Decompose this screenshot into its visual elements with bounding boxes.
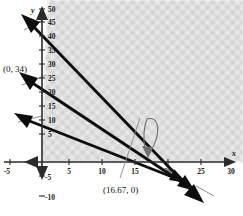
y-tick-label: 5 [48,130,52,139]
graph-canvas: -5 5 10 15 20 25 30 50 45 40 35 30 25 20… [0,0,243,216]
y-tick-label: 15 [48,102,56,111]
y-tick-label: 40 [48,32,56,41]
y-tick-label: -5 [45,173,51,182]
y-tick-label: 45 [48,18,56,27]
y-tick-label: 50 [48,5,56,14]
y-tick-label: 20 [48,88,56,97]
x-tick-label: 25 [197,167,205,176]
y-tick-label: 30 [48,60,56,69]
y-axis-name: y [30,6,35,15]
x-axis-name: x [231,149,236,158]
y-tick-label: -10 [45,193,55,202]
x-tick-label: 30 [227,167,235,176]
x-tick-label: 5 [67,167,71,176]
x-tick-label: 10 [98,167,106,176]
graph-figure: -5 5 10 15 20 25 30 50 45 40 35 30 25 20… [0,0,243,216]
x-tick-label: 15 [131,167,139,176]
y-tick-label: 35 [48,46,56,55]
x-tick-label: 20 [164,167,172,176]
y-intercept-label: (0, 34) [3,64,27,74]
x-tick-label: -5 [4,167,10,176]
x-intercept-label: (16.67, 0) [103,185,138,195]
y-tick-label: 10 [48,116,56,125]
y-tick-label: 25 [48,74,56,83]
